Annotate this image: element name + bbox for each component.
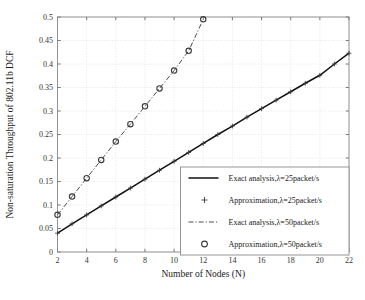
x-tick-label: 22 — [345, 256, 353, 265]
y-tick-label: 0.3 — [43, 107, 53, 116]
y-tick-label: 0.45 — [39, 36, 53, 45]
y-tick-label: 0.1 — [43, 201, 53, 210]
throughput-line-chart: 246810121416182022 00.050.10.150.20.250.… — [0, 0, 365, 300]
x-axis-label: Number of Nodes (N) — [161, 269, 245, 280]
x-tick-label: 12 — [199, 256, 207, 265]
figure-container: 246810121416182022 00.050.10.150.20.250.… — [0, 0, 365, 300]
legend-entry-label: Exact analysis,λ=50packet/s — [229, 218, 320, 227]
chart-legend[interactable]: Exact analysis,λ=25packet/sApproximation… — [181, 167, 350, 255]
x-tick-label: 8 — [143, 256, 147, 265]
y-tick-label: 0 — [49, 248, 53, 257]
y-tick-label: 0.5 — [43, 13, 53, 22]
legend-entry-label: Approximation,λ=50packet/s — [229, 240, 322, 249]
x-tick-label: 18 — [287, 256, 295, 265]
x-tick-label: 4 — [85, 256, 89, 265]
legend-entry-label: Exact analysis,λ=25packet/s — [229, 174, 320, 183]
x-tick-label: 6 — [114, 256, 118, 265]
y-tick-label: 0.25 — [39, 130, 53, 139]
x-tick-label: 10 — [170, 256, 178, 265]
x-tick-label: 16 — [258, 256, 266, 265]
x-tick-label: 2 — [56, 256, 60, 265]
x-tick-label: 20 — [316, 256, 324, 265]
y-tick-label: 0.05 — [39, 224, 53, 233]
y-tick-label: 0.35 — [39, 83, 53, 92]
y-axis-label: Non-saturation Throughput of 802.11b DCF — [5, 50, 15, 218]
y-tick-label: 0.4 — [43, 60, 53, 69]
legend-entry-label: Approximation,λ=25packet/s — [229, 196, 322, 205]
y-tick-label: 0.15 — [39, 177, 53, 186]
x-tick-label: 14 — [228, 256, 236, 265]
y-tick-label: 0.2 — [43, 154, 53, 163]
